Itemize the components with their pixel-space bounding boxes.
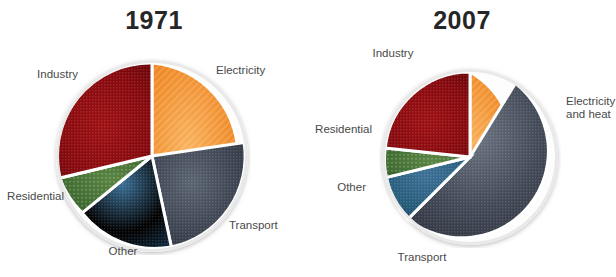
chart-panel-2007: 2007	[308, 0, 616, 277]
chart-title-1971: 1971	[0, 8, 308, 33]
pie-chart-figure: 1971	[0, 0, 616, 277]
pie-label-industry-2007: Industry	[364, 47, 422, 60]
pie-label-transport-1971: Transport	[229, 219, 278, 232]
pie-label-industry-1971: Industry	[20, 68, 78, 81]
pie-1971	[53, 57, 251, 255]
pie-label-residential-1971: Residential	[0, 190, 64, 203]
pie-label-electricity-2007: Electricity and heat	[566, 95, 616, 120]
pie-label-transport-2007: Transport	[387, 251, 457, 264]
pie-label-other-1971: Other	[99, 245, 147, 258]
pie-label-electricity-1971: Electricity	[216, 64, 265, 77]
pie-label-other-2007: Other	[316, 181, 366, 194]
pie-1971-svg	[53, 57, 251, 255]
pie-2007-svg	[379, 66, 561, 248]
pie-label-residential-2007: Residential	[308, 123, 372, 136]
chart-panel-1971: 1971	[0, 0, 308, 277]
pie-slice-industry[interactable]	[385, 72, 470, 157]
pie-2007	[379, 66, 561, 248]
chart-title-2007: 2007	[308, 8, 616, 33]
